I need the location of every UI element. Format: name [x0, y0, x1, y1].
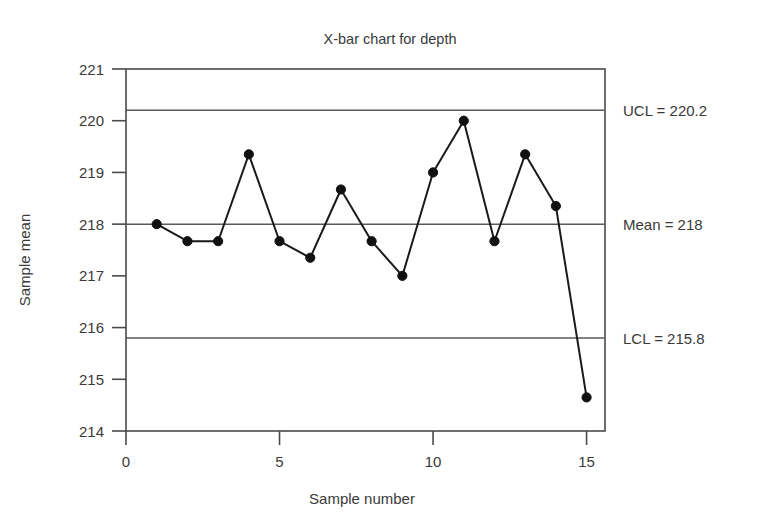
y-tick-label: 214 — [79, 423, 104, 440]
y-tick-label: 218 — [79, 216, 104, 233]
xbar-control-chart: X-bar chart for depth Sample mean Sample… — [0, 0, 760, 528]
x-tick-label: 5 — [275, 453, 283, 470]
data-point — [214, 237, 223, 246]
data-point — [521, 150, 530, 159]
data-point — [582, 393, 591, 402]
data-point — [551, 201, 560, 210]
data-point — [428, 168, 437, 177]
y-tick-label: 220 — [79, 112, 104, 129]
ucl-label: UCL = 220.2 — [623, 102, 707, 119]
y-tick-label: 216 — [79, 319, 104, 336]
lcl-label: LCL = 215.8 — [623, 330, 705, 347]
data-point — [152, 220, 161, 229]
data-point — [244, 150, 253, 159]
data-point — [183, 237, 192, 246]
sample-mean-markers — [152, 116, 591, 402]
chart-title: X-bar chart for depth — [324, 31, 457, 47]
x-tick-label: 0 — [122, 453, 130, 470]
y-tick-label: 221 — [79, 61, 104, 78]
y-axis-label: Sample mean — [16, 214, 33, 307]
mean-label: Mean = 218 — [623, 216, 703, 233]
x-tick-label: 15 — [578, 453, 595, 470]
y-tick-label: 219 — [79, 164, 104, 181]
data-point — [490, 237, 499, 246]
y-tick-label: 215 — [79, 371, 104, 388]
data-point — [367, 237, 376, 246]
plot-area-frame — [126, 69, 605, 431]
sample-mean-line — [157, 121, 587, 398]
data-point — [336, 185, 345, 194]
data-point — [459, 116, 468, 125]
y-axis-ticks: 214215216217218219220221 — [79, 61, 126, 440]
control-limit-labels: UCL = 220.2Mean = 218LCL = 215.8 — [623, 102, 707, 347]
control-limit-lines — [126, 110, 605, 338]
y-tick-label: 217 — [79, 267, 104, 284]
data-point — [275, 237, 284, 246]
x-tick-label: 10 — [425, 453, 442, 470]
chart-canvas: X-bar chart for depth Sample mean Sample… — [0, 0, 760, 528]
data-point — [306, 253, 315, 262]
x-axis-ticks: 051015 — [122, 431, 595, 470]
x-axis-label: Sample number — [309, 490, 415, 507]
data-point — [398, 271, 407, 280]
